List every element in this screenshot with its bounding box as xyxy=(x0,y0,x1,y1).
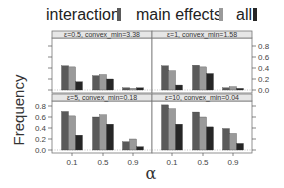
bar-interaction-0.9 xyxy=(223,88,230,90)
y-tick-label: 0.2 xyxy=(258,75,270,84)
bar-interaction-0.9 xyxy=(223,129,230,150)
bar-main-effects-0.9 xyxy=(130,139,137,150)
x-tick-label: 0.1 xyxy=(66,158,78,167)
bar-interaction-0.1 xyxy=(162,105,169,150)
panel-2: ε=1, convex_min=1.58 xyxy=(152,31,252,93)
panel-strip-label: ε=0.5, convex_min=3.38 xyxy=(64,31,140,39)
panel-strip-label: ε=5, convex_min=0.18 xyxy=(67,94,137,102)
x-tick-label: 0.9 xyxy=(127,158,139,167)
bar-interaction-0.5 xyxy=(193,65,200,90)
legend-label-all: all xyxy=(236,6,252,23)
bar-main-effects-0.5 xyxy=(100,75,107,90)
bar-all-0.5 xyxy=(107,79,114,90)
x-tick-label: 0.5 xyxy=(97,158,109,167)
bar-interaction-0.5 xyxy=(93,117,100,150)
bar-interaction-0.1 xyxy=(162,66,169,90)
x-tick-label: 0.5 xyxy=(197,158,209,167)
bar-main-effects-0.1 xyxy=(69,67,76,90)
bar-main-effects-0.1 xyxy=(169,71,176,90)
y-tick-label: 0.4 xyxy=(258,64,270,73)
x-tick-label: 0.1 xyxy=(166,158,178,167)
bar-all-0.9 xyxy=(237,143,244,150)
bar-interaction-0.1 xyxy=(62,112,69,151)
bar-all-0.9 xyxy=(237,88,244,90)
panel-strip-label: ε=1, convex_min=1.58 xyxy=(167,31,237,39)
y-tick-label: 0.6 xyxy=(258,53,270,62)
y-axis-label: Frequency xyxy=(10,74,27,145)
bar-main-effects-0.5 xyxy=(100,115,107,150)
legend-label-main-effects: main effects xyxy=(136,6,222,23)
legend-label-interaction: interaction xyxy=(46,6,120,23)
bar-interaction-0.5 xyxy=(93,76,100,90)
bar-all-0.9 xyxy=(137,88,144,90)
panel-4: ε=10, convex_min=0.04 xyxy=(152,94,252,153)
bar-all-0.1 xyxy=(176,85,183,90)
bar-main-effects-0.9 xyxy=(130,88,137,90)
bar-all-0.5 xyxy=(107,124,114,150)
panel-3: ε=5, convex_min=0.18 xyxy=(52,94,152,153)
panel-strip-label: ε=10, convex_min=0.04 xyxy=(165,94,239,102)
faceted-bar-chart: interactionmain effectsall ε=0.5, convex… xyxy=(0,0,284,188)
bar-all-0.1 xyxy=(176,124,183,150)
bar-main-effects-0.5 xyxy=(200,117,207,150)
bar-interaction-0.5 xyxy=(193,112,200,150)
bar-all-0.1 xyxy=(76,135,83,150)
bar-main-effects-0.5 xyxy=(200,67,207,90)
y-tick-label: 0.4 xyxy=(35,124,47,133)
bar-interaction-0.9 xyxy=(123,142,130,150)
bar-interaction-0.9 xyxy=(123,88,130,90)
bar-all-0.5 xyxy=(207,74,214,91)
bar-main-effects-0.1 xyxy=(169,109,176,150)
y-tick-label: 0.8 xyxy=(258,42,270,51)
bar-main-effects-0.9 xyxy=(230,87,237,90)
y-tick-label: 0.6 xyxy=(35,113,47,122)
y-tick-label: 0.8 xyxy=(35,102,47,111)
bar-interaction-0.1 xyxy=(62,66,69,90)
x-axis-label: α xyxy=(146,164,157,183)
legend-swatch-main-effects xyxy=(219,8,223,21)
y-tick-label: 0.2 xyxy=(35,135,47,144)
panel-1: ε=0.5, convex_min=3.38 xyxy=(52,31,152,93)
bar-all-0.1 xyxy=(76,82,83,90)
y-tick-label: 0.0 xyxy=(258,86,270,95)
bar-main-effects-0.9 xyxy=(230,134,237,151)
y-tick-label: 0.0 xyxy=(35,146,47,155)
legend-swatch-all xyxy=(253,8,257,21)
panels: ε=0.5, convex_min=3.38ε=1, convex_min=1.… xyxy=(52,31,252,153)
bar-main-effects-0.1 xyxy=(69,116,76,150)
bar-all-0.9 xyxy=(137,147,144,150)
x-tick-label: 0.9 xyxy=(227,158,239,167)
legend-swatch-interaction xyxy=(117,8,121,21)
legend: interactionmain effectsall xyxy=(46,6,257,23)
bar-all-0.5 xyxy=(207,127,214,150)
